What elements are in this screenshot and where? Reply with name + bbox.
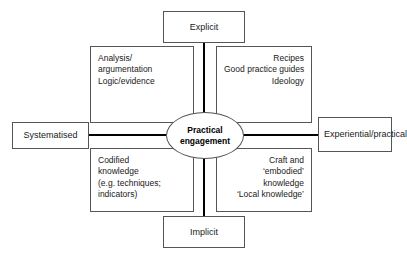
quadrant-top-right: RecipesGood practice guidesIdeology: [216, 46, 312, 123]
quadrant-top-left: Analysis/argumentationLogic/evidence: [90, 46, 194, 123]
text-line: argumentation: [98, 64, 186, 75]
axis-pole-implicit: Implicit: [163, 216, 245, 248]
text-line: engagement: [180, 136, 230, 147]
text-line: Craft and: [224, 155, 304, 166]
centre-node-practical-engagement: Practicalengagement: [166, 112, 244, 159]
text-line: Experiential/: [324, 129, 374, 139]
quadrant-bottom-right: Craft and‘embodied’knowledge‘Local knowl…: [216, 148, 312, 212]
axis-pole-explicit-label: Explicit: [190, 22, 219, 33]
quadrant-bottom-left-text: Codifiedknowledge(e.g. techniques;indica…: [98, 155, 186, 201]
text-line: knowledge: [224, 178, 304, 189]
quadrant-bottom-left: Codifiedknowledge(e.g. techniques;indica…: [90, 148, 194, 212]
text-line: knowledge: [98, 166, 186, 177]
text-line: Practical: [180, 125, 230, 136]
vertical-axis-line-upper: [203, 43, 205, 113]
text-line: indicators): [98, 189, 186, 200]
quadrant-top-right-text: RecipesGood practice guidesIdeology: [224, 53, 304, 87]
text-line: ‘Local knowledge’: [224, 189, 304, 200]
text-line: Logic/evidence: [98, 76, 186, 87]
centre-node-label: Practicalengagement: [180, 125, 230, 146]
vertical-axis-line-lower: [203, 157, 205, 216]
text-line: ‘embodied’: [224, 166, 304, 177]
text-line: Good practice guides: [224, 64, 304, 75]
axis-pole-experiential: Experiential/practical: [318, 117, 392, 152]
axis-pole-experiential-label: Experiential/practical: [324, 129, 407, 140]
text-line: Recipes: [224, 53, 304, 64]
axis-pole-systematised-label: Systematised: [23, 130, 77, 141]
text-line: (e.g. techniques;: [98, 178, 186, 189]
axis-pole-explicit: Explicit: [163, 11, 245, 43]
text-line: Codified: [98, 155, 186, 166]
quadrant-bottom-right-text: Craft and‘embodied’knowledge‘Local knowl…: [224, 155, 304, 201]
axis-pole-implicit-label: Implicit: [190, 227, 218, 238]
quadrant-top-left-text: Analysis/argumentationLogic/evidence: [98, 53, 186, 87]
axis-pole-systematised: Systematised: [12, 122, 89, 149]
text-line: Ideology: [224, 76, 304, 87]
text-line: Analysis/: [98, 53, 186, 64]
text-line: practical: [374, 129, 407, 139]
horizontal-axis-line-left: [89, 134, 168, 136]
horizontal-axis-line-right: [242, 134, 319, 136]
